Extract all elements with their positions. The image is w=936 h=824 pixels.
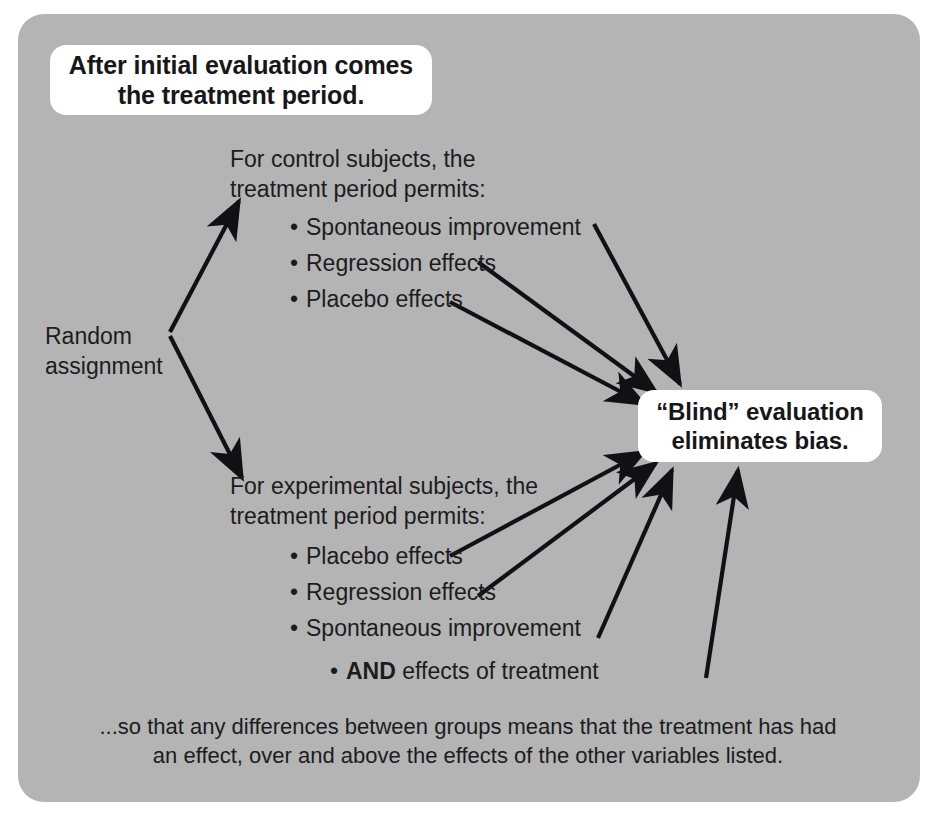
and-effects-of-treatment-line: •AND effects of treatment [330,658,599,685]
list-item-label: Placebo effects [306,543,463,569]
bullet-icon: • [290,252,306,275]
list-item-label: Regression effects [306,250,496,276]
list-item: •Spontaneous improvement [290,617,581,640]
bullet-icon: • [290,216,306,239]
label-random-assignment: Random assignment [45,322,225,382]
footer-note: ...so that any differences between group… [42,712,894,771]
list-item: •Spontaneous improvement [290,216,581,239]
list-item: •Regression effects [290,252,581,275]
experimental-bullet-list: •Placebo effects •Regression effects •Sp… [290,545,581,653]
list-item-label: Regression effects [306,579,496,605]
list-item-label: Spontaneous improvement [306,615,581,641]
list-item: •Placebo effects [290,288,581,311]
control-bullet-list: •Spontaneous improvement •Regression eff… [290,216,581,324]
bullet-icon: • [290,617,306,640]
bullet-icon: • [290,545,306,568]
diagram-canvas: After initial evaluation comes the treat… [0,0,936,824]
callout-treatment-period: After initial evaluation comes the treat… [50,45,432,115]
bullet-icon: • [290,581,306,604]
list-item-label: Placebo effects [306,286,463,312]
label-control-heading: For control subjects, the treatment peri… [230,145,560,205]
and-rest: effects of treatment [396,658,599,684]
label-experimental-heading: For experimental subjects, the treatment… [230,472,590,532]
list-item-label: Spontaneous improvement [306,214,581,240]
list-item: •Regression effects [290,581,581,604]
bullet-icon: • [290,288,306,311]
bullet-icon: • [330,658,346,685]
callout-blind-evaluation: “Blind” evaluation eliminates bias. [638,390,882,462]
and-emphasis: AND [346,658,396,684]
list-item: •Placebo effects [290,545,581,568]
